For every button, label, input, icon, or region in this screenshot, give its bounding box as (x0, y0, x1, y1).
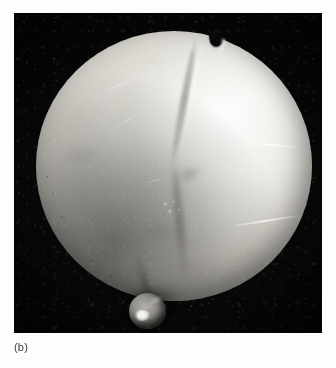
illuminated-sphere (36, 31, 312, 301)
sphere-surface (36, 31, 312, 301)
metallic-reference-ball (129, 293, 166, 329)
ball-specular-highlight (137, 310, 150, 321)
figure-caption: (b) (14, 341, 28, 354)
photographic-plate (14, 13, 322, 333)
figure-root: (b) (0, 0, 336, 368)
